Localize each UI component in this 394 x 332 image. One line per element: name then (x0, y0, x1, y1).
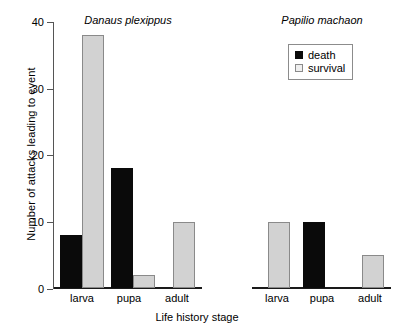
bar-right-adult-survival (362, 255, 384, 288)
legend-swatch-survival-icon (295, 64, 303, 72)
bar-right-larva-survival (268, 222, 290, 289)
x-tick-label-right-adult: adult (358, 292, 382, 304)
y-tick-label-0: 0 (4, 283, 44, 295)
y-tick-label-20: 20 (4, 149, 44, 161)
chart-legend: death survival (288, 44, 353, 80)
y-tick-30 (47, 89, 53, 90)
x-axis-title: Life history stage (0, 311, 394, 323)
legend-label-death: death (308, 50, 336, 61)
legend-swatch-death-icon (295, 51, 303, 59)
y-tick-label-40: 40 (4, 16, 44, 28)
legend-item-survival: survival (295, 62, 345, 74)
y-tick-label-30: 30 (4, 83, 44, 95)
bar-right-pupa-death (303, 222, 325, 289)
y-tick-20 (47, 155, 53, 156)
y-tick-10 (47, 222, 53, 223)
y-tick-label-10: 10 (4, 216, 44, 228)
x-tick-label-right-larva: larva (265, 292, 289, 304)
x-tick-label-left-pupa: pupa (117, 292, 141, 304)
x-tick-label-left-larva: larva (70, 292, 94, 304)
bar-left-adult-survival (173, 222, 195, 289)
panel-title-left: Danaus plexippus (54, 14, 202, 26)
chart-figure: Number of attacks leading to event 0 10 … (0, 0, 394, 332)
bar-left-pupa-survival (133, 275, 155, 288)
y-tick-0 (47, 289, 53, 290)
bar-left-pupa-death (111, 168, 133, 288)
legend-label-survival: survival (308, 63, 345, 74)
x-tick-label-right-pupa: pupa (310, 292, 334, 304)
x-tick-label-left-adult: adult (165, 292, 189, 304)
legend-item-death: death (295, 49, 345, 61)
bar-left-larva-death (60, 235, 82, 288)
bar-left-larva-survival (82, 35, 104, 288)
panel-title-right: Papilio machaon (252, 14, 392, 26)
y-tick-40 (47, 22, 53, 23)
